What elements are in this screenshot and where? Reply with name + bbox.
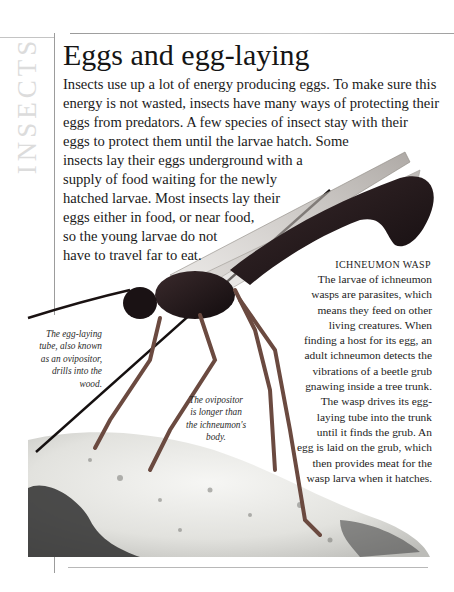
intro-line: energy is not wasted, insects have many … [63,94,453,113]
margin-rule [54,33,55,315]
caption-line: The larvae of ichneumon [272,272,432,287]
intro-line: eggs from predators. A few species of in… [63,113,453,132]
caption-line: wasp larva when it hatches. [272,471,432,486]
annotation-line: tube, also known [30,340,102,352]
section-label-text: INSECTS [13,36,44,174]
intro-line: supply of food waiting for the newly [63,170,453,189]
caption-line: then provides meat for the [272,456,432,471]
annotation-ovipositor-drills: The egg-laying tube, also known as an ov… [30,328,102,390]
caption-line: living creatures. When [272,318,432,333]
footer-rule [68,567,428,568]
intro-line: insects lay their eggs underground with … [63,151,453,170]
intro-line: so the young larvae do not [63,227,453,246]
caption-line: The wasp drives its egg- [272,394,432,409]
caption-line: laying tube into the trunk [272,410,432,425]
intro-line: hatched larvae. Most insects lay their [63,189,453,208]
intro-paragraph: Insects use up a lot of energy producing… [63,75,453,265]
caption-line: until it finds the grub. An [272,425,432,440]
header-rule [70,33,454,34]
intro-line: eggs either in food, or near food, [63,208,453,227]
annotation-line: is longer than [180,406,252,418]
caption-line: means they feed on other [272,303,432,318]
caption-body: The larvae of ichneumon wasps are parasi… [272,272,432,486]
page-title: Eggs and egg-laying [63,37,310,73]
annotation-line: wood. [30,378,102,390]
intro-line: Insects use up a lot of energy producing… [63,75,453,94]
caption-line: egg is laid on the grub, which [272,440,432,455]
annotation-line: The ovipositor [180,394,252,406]
annotation-ovipositor-longer: The ovipositor is longer than the ichneu… [180,394,252,444]
intro-line: eggs to protect them until the larvae ha… [63,132,453,151]
annotation-line: as an ovipositor, [30,353,102,365]
annotation-line: the ichneumon's [180,419,252,431]
section-label: INSECTS [8,30,48,180]
caption-heading: Ichneumon wasp [335,259,431,270]
caption-line: adult ichneumon detects the [272,348,432,363]
annotation-line: The egg-laying [30,328,102,340]
caption-line: finding a host for its egg, an [272,333,432,348]
annotation-line: body. [180,431,252,443]
margin-rule-lower [54,555,55,573]
caption-line: gnawing inside a tree trunk. [272,379,432,394]
annotation-line: drills into the [30,365,102,377]
caption-line: vibrations of a beetle grub [272,364,432,379]
caption-line: wasps are parasites, which [272,287,432,302]
